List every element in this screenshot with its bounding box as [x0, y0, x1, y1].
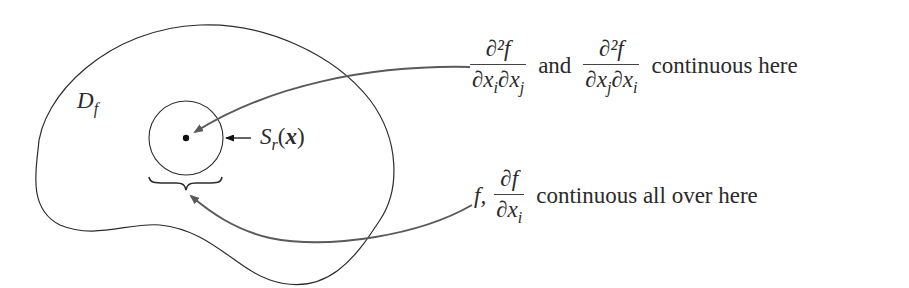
fraction-denominator: ∂xi [494, 194, 524, 227]
fraction-numerator: ∂f [498, 166, 520, 194]
center-point [183, 135, 189, 141]
lower-annotation-text: continuous all over here [536, 183, 758, 209]
lower-annotation: f, ∂f ∂xi continuous all over here [474, 166, 758, 227]
ball-label-argument: x [285, 124, 297, 149]
fraction-denominator: ∂xj∂xi [583, 64, 639, 97]
fraction-numerator: ∂²f [484, 36, 513, 64]
upper-annotation: ∂²f ∂xi∂xj and ∂²f ∂xj∂xi continuous her… [466, 36, 798, 97]
paren-close: ) [297, 124, 305, 149]
fraction-denominator: ∂xi∂xj [470, 64, 526, 97]
region-label-subscript: f [94, 100, 98, 117]
region-label: Df [77, 88, 98, 118]
region-domain-outline [36, 25, 394, 285]
mixed-partial-ji: ∂²f ∂xj∂xi [583, 36, 639, 97]
brace-under-ball [149, 177, 222, 190]
ball-label-main: S [260, 124, 272, 149]
ball-label: Sr(x) [260, 124, 305, 154]
lower-annotation-arrow [191, 196, 472, 242]
fraction-numerator: ∂²f [597, 36, 626, 64]
upper-annotation-arrow [195, 67, 470, 132]
upper-annotation-text: continuous here [651, 53, 797, 79]
connector-text: and [538, 53, 571, 79]
region-label-main: D [77, 88, 94, 113]
mixed-partial-ij: ∂²f ∂xi∂xj [470, 36, 526, 97]
function-symbol: f, [474, 183, 486, 209]
first-partial: ∂f ∂xi [494, 166, 524, 227]
